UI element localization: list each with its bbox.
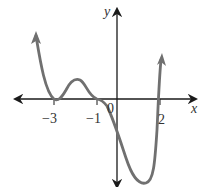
polynomial-curve (36, 36, 161, 183)
tick-label-2: 2 (158, 112, 165, 127)
x-axis-label: x (190, 101, 198, 116)
tick-label-neg1: −1 (86, 111, 101, 126)
y-axis-label: y (102, 4, 111, 19)
polynomial-graph: y x −3 −1 0 2 (0, 0, 205, 187)
origin-label: 0 (107, 101, 114, 116)
tick-label-neg3: −3 (42, 111, 57, 126)
